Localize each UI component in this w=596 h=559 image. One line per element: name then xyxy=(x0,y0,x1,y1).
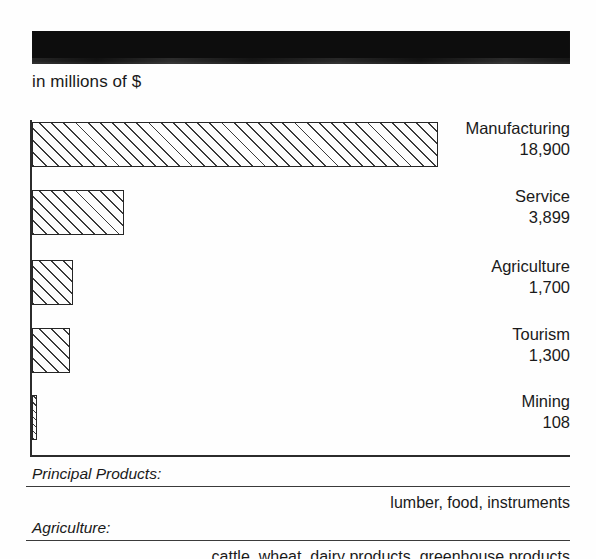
redaction-grain xyxy=(32,58,570,64)
bar-category-label: Tourism xyxy=(310,324,570,345)
bar-category-label: Service xyxy=(310,186,570,207)
bar-label-group: Mining 108 xyxy=(310,391,570,433)
bar-agriculture[interactable] xyxy=(32,260,73,305)
bar-label-group: Manufacturing 18,900 xyxy=(310,118,570,160)
x-axis-baseline xyxy=(30,455,570,457)
bar-row[interactable]: Tourism 1,300 xyxy=(0,328,596,373)
bar-row[interactable]: Agriculture 1,700 xyxy=(0,260,596,305)
bar-value-label: 1,300 xyxy=(310,345,570,366)
note-heading: Agriculture: xyxy=(0,519,596,540)
bar-row[interactable]: Manufacturing 18,900 xyxy=(0,122,596,167)
note-heading: Principal Products: xyxy=(0,465,596,486)
note-agriculture: Agriculture: cattle, wheat, dairy produc… xyxy=(0,519,596,559)
bar-value-label: 18,900 xyxy=(310,139,570,160)
bar-label-group: Agriculture 1,700 xyxy=(310,256,570,298)
bar-value-label: 1,700 xyxy=(310,277,570,298)
bar-value-label: 3,899 xyxy=(310,207,570,228)
chart-page: in millions of $ Manufacturing 18,900 Se… xyxy=(0,0,596,559)
bar-label-group: Tourism 1,300 xyxy=(310,324,570,366)
bar-row[interactable]: Service 3,899 xyxy=(0,190,596,235)
note-value: lumber, food, instruments xyxy=(0,486,596,512)
footer-notes: Principal Products: lumber, food, instru… xyxy=(0,465,596,559)
bar-row[interactable]: Mining 108 xyxy=(0,395,596,440)
bar-category-label: Manufacturing xyxy=(310,118,570,139)
bar-tourism[interactable] xyxy=(32,328,70,373)
note-rule xyxy=(26,486,570,487)
bar-mining[interactable] xyxy=(32,395,37,440)
note-value: cattle, wheat, dairy products, greenhous… xyxy=(0,540,596,559)
redacted-title-bar xyxy=(32,31,570,64)
bar-category-label: Mining xyxy=(310,391,570,412)
bar-category-label: Agriculture xyxy=(310,256,570,277)
bar-value-label: 108 xyxy=(310,412,570,433)
note-rule xyxy=(26,540,570,541)
bar-service[interactable] xyxy=(32,190,124,235)
bar-label-group: Service 3,899 xyxy=(310,186,570,228)
note-principal-products: Principal Products: lumber, food, instru… xyxy=(0,465,596,512)
units-label: in millions of $ xyxy=(32,72,141,92)
bar-chart: Manufacturing 18,900 Service 3,899 Agric… xyxy=(0,110,596,458)
